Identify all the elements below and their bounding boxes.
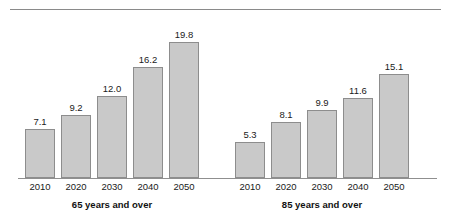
- bar-slot: 8.1 2020: [268, 0, 304, 178]
- bar-group-65-bars: 7.1 2010 9.2 2020 12.0 2030 16.2: [22, 0, 202, 178]
- bar-value-label: 8.1: [262, 109, 310, 120]
- group-label-65-and-over: 65 years and over: [22, 199, 202, 211]
- bar[interactable]: [133, 67, 163, 178]
- bar-group-65-and-over: 7.1 2010 9.2 2020 12.0 2030 16.2: [22, 0, 202, 223]
- bar-slot: 7.1 2010: [22, 0, 58, 178]
- bar-slot: 16.2 2040: [130, 0, 166, 178]
- bar[interactable]: [169, 42, 199, 178]
- bar-group-85-and-over: 5.3 2010 8.1 2020 9.9 2030 11.6: [232, 0, 412, 223]
- bar-value-label: 7.1: [16, 116, 64, 127]
- bar-slot: 5.3 2010: [232, 0, 268, 178]
- bar-slot: 11.6 2040: [340, 0, 376, 178]
- bar-chart-figure: 7.1 2010 9.2 2020 12.0 2030 16.2: [0, 0, 450, 223]
- bar[interactable]: [271, 122, 301, 178]
- bar-slot: 12.0 2030: [94, 0, 130, 178]
- bar-group-85-bars: 5.3 2010 8.1 2020 9.9 2030 11.6: [232, 0, 412, 178]
- bar-value-label: 16.2: [124, 54, 172, 65]
- bar-value-label: 11.6: [334, 85, 382, 96]
- group-label-85-and-over: 85 years and over: [232, 199, 412, 211]
- bar-value-label: 12.0: [88, 83, 136, 94]
- bar[interactable]: [97, 96, 127, 178]
- bar[interactable]: [25, 129, 55, 178]
- bar[interactable]: [235, 142, 265, 178]
- bar-value-label: 19.8: [160, 29, 208, 40]
- x-tick-label: 2050: [370, 181, 418, 193]
- bar-value-label: 15.1: [370, 61, 418, 72]
- x-tick-label: 2050: [160, 181, 208, 193]
- bar[interactable]: [307, 110, 337, 178]
- bar-value-label: 5.3: [226, 129, 274, 140]
- bar-value-label: 9.9: [298, 97, 346, 108]
- bar-slot: 19.8 2050: [166, 0, 202, 178]
- bar-value-label: 9.2: [52, 102, 100, 113]
- bar[interactable]: [61, 115, 91, 178]
- plot-area: 7.1 2010 9.2 2020 12.0 2030 16.2: [0, 0, 450, 223]
- bar[interactable]: [343, 98, 373, 178]
- bar-slot: 15.1 2050: [376, 0, 412, 178]
- bar[interactable]: [379, 74, 409, 178]
